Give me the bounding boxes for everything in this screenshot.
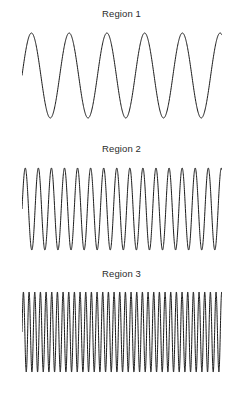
region-1-wave-path <box>22 33 222 118</box>
region-3-title: Region 3 <box>0 268 243 280</box>
region-3-wave-path <box>22 292 222 372</box>
region-1-waveform-plot <box>22 28 222 124</box>
region-3-waveform-plot <box>22 288 222 380</box>
region-2-wave-path <box>22 168 222 250</box>
waveform-figure: Region 1 Region 2 Region 3 <box>0 0 243 397</box>
region-2-waveform-plot <box>22 163 222 257</box>
region-1-title: Region 1 <box>0 8 243 20</box>
region-2-title: Region 2 <box>0 143 243 155</box>
